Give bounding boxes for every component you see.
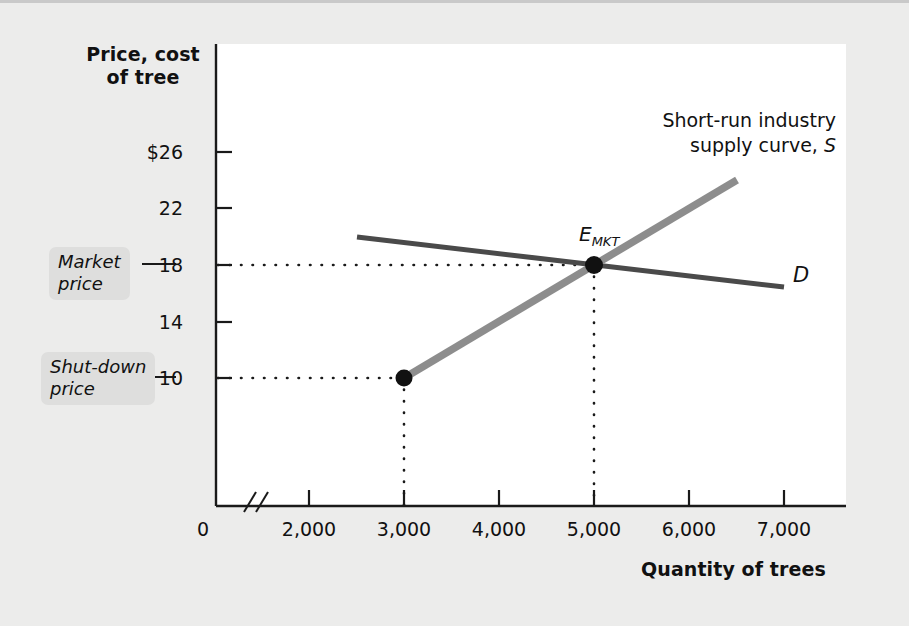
demand-curve-label: D [793, 263, 809, 287]
x-tick-label-3000: 3,000 [362, 518, 446, 540]
equilibrium-label-base: E [579, 222, 592, 246]
y-axis-title: Price, cost of tree [84, 43, 202, 89]
x-tick-label-2000: 2,000 [267, 518, 351, 540]
supply-curve-label-line2: supply curve, [690, 134, 824, 156]
market-price-callout-line2: price [58, 273, 103, 294]
axis-break-mark-1 [244, 492, 256, 512]
x-tick-label-7000: 7,000 [742, 518, 826, 540]
market-price-callout-line1: Market [58, 251, 121, 272]
y-tick-label-26: $26 [113, 141, 183, 163]
axis-break-mark-2 [256, 492, 268, 512]
equilibrium-point-marker [585, 256, 603, 274]
y-axis-title-line2: of tree [107, 66, 180, 88]
x-tick-label-5000: 5,000 [552, 518, 636, 540]
y-axis-title-line1: Price, cost [86, 43, 200, 65]
equilibrium-label-subscript: MKT [592, 234, 620, 249]
shutdown-price-callout: Shut-down price [41, 352, 155, 405]
y-tick-label-22: 22 [113, 197, 183, 219]
shutdown-price-callout-line2: price [50, 378, 95, 399]
y-tick-label-14: 14 [113, 311, 183, 333]
supply-curve-line [404, 180, 737, 378]
shutdown-point-marker [396, 370, 413, 387]
x-tick-label-6000: 6,000 [647, 518, 731, 540]
supply-curve-symbol: S [824, 134, 836, 156]
x-tick-label-4000: 4,000 [457, 518, 541, 540]
supply-curve-label: Short-run industry supply curve, S [602, 108, 836, 158]
figure-container: Price, cost of tree Quantity of trees $2… [0, 0, 909, 626]
x-axis-title: Quantity of trees [641, 558, 826, 581]
supply-curve-label-line1: Short-run industry [662, 109, 836, 131]
shutdown-price-callout-line1: Shut-down [50, 356, 146, 377]
x-axis-origin-label: 0 [161, 518, 245, 540]
market-price-callout: Market price [49, 247, 130, 300]
equilibrium-point-label: EMKT [579, 222, 619, 249]
